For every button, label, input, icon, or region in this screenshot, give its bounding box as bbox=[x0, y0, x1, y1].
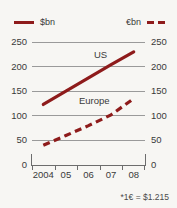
footnote: *1€ = $1.215 bbox=[121, 192, 169, 202]
x-axis-labels: 200405060708 bbox=[32, 170, 145, 182]
chart-legend: $bn €bn bbox=[0, 14, 177, 30]
y-axis-right-tick-150: 150 bbox=[151, 86, 167, 96]
legend-label-usd: $bn bbox=[40, 17, 55, 27]
y-axis-left-tick-150: 150 bbox=[11, 86, 27, 96]
dashed-line-icon bbox=[147, 21, 167, 24]
y-axis-right-tick-250: 250 bbox=[151, 37, 167, 47]
x-axis-label-07: 07 bbox=[106, 170, 117, 180]
y-axis-right-tick-0: 0 bbox=[151, 160, 156, 170]
series-annotation-europe: Europe bbox=[79, 96, 110, 106]
y-axis-right-tick-100: 100 bbox=[151, 111, 167, 121]
plot-area: 050100150200250 050100150200250 US Europ… bbox=[32, 42, 145, 165]
x-axis-label-05: 05 bbox=[61, 170, 72, 180]
series-annotation-us: US bbox=[94, 50, 107, 60]
y-axis-right-tick-200: 200 bbox=[151, 62, 167, 72]
legend-item-eur: €bn bbox=[126, 14, 167, 30]
y-axis-left-tick-250: 250 bbox=[11, 37, 27, 47]
y-axis-left-tick-100: 100 bbox=[11, 111, 27, 121]
legend-label-eur: €bn bbox=[126, 17, 141, 27]
x-axis-label-06: 06 bbox=[83, 170, 94, 180]
chart-container: $bn €bn 050100150200250 050100150200250 … bbox=[0, 0, 177, 208]
y-axis-origin-stub-right bbox=[145, 154, 146, 166]
x-axis-label-2004: 2004 bbox=[33, 170, 54, 180]
legend-item-usd: $bn bbox=[14, 14, 55, 30]
x-axis-label-08: 08 bbox=[128, 170, 139, 180]
y-axis-right-tick-50: 50 bbox=[151, 135, 162, 145]
y-axis-left-tick-0: 0 bbox=[22, 160, 27, 170]
y-axis-left-tick-200: 200 bbox=[11, 62, 27, 72]
y-axis-left-tick-50: 50 bbox=[16, 135, 27, 145]
solid-line-icon bbox=[14, 21, 34, 24]
